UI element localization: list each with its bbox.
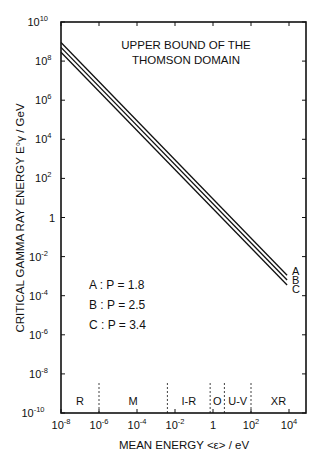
x-tick-label: 104 bbox=[281, 417, 297, 431]
series-line-a bbox=[61, 43, 287, 276]
x-tick-label: 10-2 bbox=[166, 417, 185, 431]
plot-area: 1010108106104102110-210-410-610-810-1010… bbox=[21, 14, 306, 431]
y-tick-label: 1010 bbox=[27, 14, 48, 28]
legend-entry-c: C : P = 3.4 bbox=[89, 318, 146, 332]
chart-title-line2: THOMSON DOMAIN bbox=[132, 54, 240, 66]
region-label-xr: XR bbox=[271, 395, 286, 407]
y-tick-label: 102 bbox=[35, 170, 51, 184]
legend-entry-b: B : P = 2.5 bbox=[89, 298, 145, 312]
y-tick-label: 10-10 bbox=[21, 405, 44, 419]
x-tick-label: 10-6 bbox=[90, 417, 109, 431]
y-tick-label: 10-8 bbox=[29, 366, 48, 380]
y-tick-label: 104 bbox=[35, 131, 51, 145]
x-tick-label: 102 bbox=[243, 417, 259, 431]
region-label-u-v: U-V bbox=[228, 395, 248, 407]
x-tick-label: 10-4 bbox=[128, 417, 147, 431]
y-tick-label: 10-6 bbox=[29, 327, 48, 341]
chart-title-line1: UPPER BOUND OF THE bbox=[121, 39, 251, 51]
x-tick-label: 10-8 bbox=[52, 417, 71, 431]
y-tick-label: 10-4 bbox=[29, 288, 48, 302]
y-tick-label: 106 bbox=[35, 92, 51, 106]
series-label-c: C bbox=[292, 283, 300, 295]
y-axis-label: CRITICAL GAMMA RAY ENERGY E°γ / GeV bbox=[14, 103, 26, 332]
legend: A : P = 1.8 B : P = 2.5 C : P = 3.4 bbox=[89, 278, 146, 332]
chart: 1010108106104102110-210-410-610-810-1010… bbox=[0, 0, 319, 459]
x-axis-label: MEAN ENERGY <ε> / eV bbox=[119, 439, 250, 451]
series-line-b bbox=[61, 47, 287, 280]
region-label-i-r: I-R bbox=[181, 395, 196, 407]
region-label-r: R bbox=[76, 395, 84, 407]
legend-entry-a: A : P = 1.8 bbox=[89, 278, 145, 292]
y-tick-label: 10-2 bbox=[29, 249, 48, 263]
region-label-m: M bbox=[129, 395, 138, 407]
region-label-o: O bbox=[213, 395, 222, 407]
y-tick-label: 108 bbox=[35, 53, 51, 67]
y-tick-label: 1 bbox=[49, 212, 55, 224]
x-tick-label: 1 bbox=[210, 419, 216, 431]
series-line-c bbox=[61, 52, 287, 285]
